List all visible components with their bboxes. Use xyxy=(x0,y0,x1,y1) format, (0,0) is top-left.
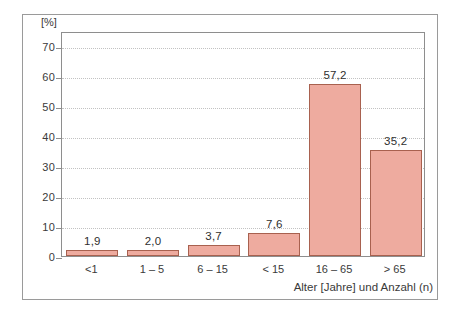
y-tick-label: 10 xyxy=(42,221,55,233)
bar-item[interactable]: 2,0 xyxy=(127,31,179,256)
bar-value-label: 3,7 xyxy=(205,230,222,242)
bar-value-label: 2,0 xyxy=(145,235,162,247)
x-tick-label: <1 xyxy=(65,263,117,275)
x-tick-label: > 65 xyxy=(369,263,421,275)
x-axis-tick-labels: <11 – 56 – 15< 1516 – 65> 65 xyxy=(61,263,425,279)
x-tick-label: 16 – 65 xyxy=(308,263,360,275)
y-tick-mark xyxy=(56,228,62,229)
y-tick-mark xyxy=(56,168,62,169)
bar-rect[interactable] xyxy=(188,245,240,256)
bar-item[interactable]: 1,9 xyxy=(66,31,118,256)
bar-item[interactable]: 57,2 xyxy=(309,31,361,256)
bar-rect[interactable] xyxy=(127,250,179,256)
y-axis-unit-label: [%] xyxy=(41,16,57,28)
chart-figure: [%] 010203040506070 1,92,03,77,657,235,2… xyxy=(22,14,438,300)
y-axis-tick-labels: 010203040506070 xyxy=(23,32,55,257)
bar-value-label: 57,2 xyxy=(323,69,346,81)
y-tick-label: 20 xyxy=(42,191,55,203)
bar-value-label: 1,9 xyxy=(84,235,101,247)
bar-item[interactable]: 35,2 xyxy=(370,31,422,256)
y-tick-label: 40 xyxy=(42,131,55,143)
y-tick-mark xyxy=(56,108,62,109)
bar-item[interactable]: 3,7 xyxy=(188,31,240,256)
bar-rect[interactable] xyxy=(248,233,300,256)
bar-rect[interactable] xyxy=(309,84,361,256)
y-tick-mark xyxy=(56,198,62,199)
y-tick-label: 0 xyxy=(49,251,55,263)
y-tick-mark xyxy=(56,258,62,259)
x-tick-label: 1 – 5 xyxy=(126,263,178,275)
y-tick-label: 30 xyxy=(42,161,55,173)
plot-area: 1,92,03,77,657,235,2 xyxy=(61,32,425,257)
bar-value-label: 35,2 xyxy=(384,135,407,147)
bar-item[interactable]: 7,6 xyxy=(248,31,300,256)
x-tick-label: < 15 xyxy=(247,263,299,275)
y-tick-label: 70 xyxy=(42,41,55,53)
y-tick-mark xyxy=(56,78,62,79)
y-tick-mark xyxy=(56,48,62,49)
y-tick-mark xyxy=(56,138,62,139)
y-tick-label: 60 xyxy=(42,71,55,83)
x-tick-label: 6 – 15 xyxy=(187,263,239,275)
y-tick-label: 50 xyxy=(42,101,55,113)
bar-value-label: 7,6 xyxy=(266,218,283,230)
x-axis-title: Alter [Jahre] und Anzahl (n) xyxy=(35,281,437,293)
bar-rect[interactable] xyxy=(66,250,118,256)
bar-rect[interactable] xyxy=(370,150,422,256)
